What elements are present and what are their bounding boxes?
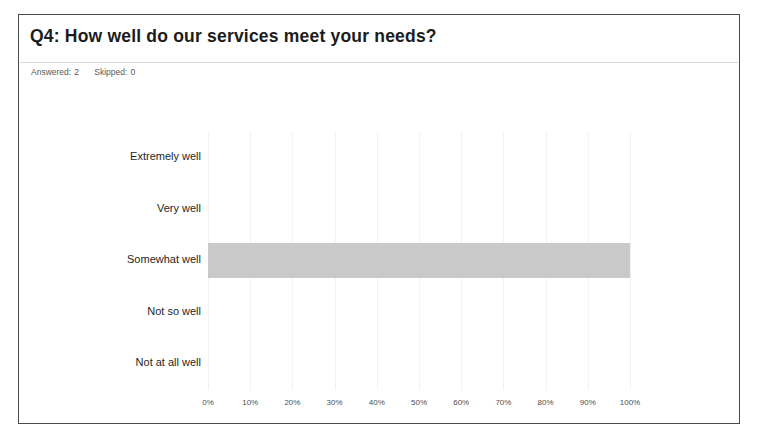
answered-stat: Answered:2	[31, 67, 79, 77]
skipped-value: 0	[130, 67, 135, 77]
answered-value: 2	[74, 67, 79, 77]
x-tick-label: 0%	[202, 398, 214, 407]
skipped-label: Skipped:	[94, 67, 127, 77]
response-summary: Answered:2 Skipped:0	[31, 67, 135, 77]
category-label: Somewhat well	[127, 252, 201, 266]
category-label: Not so well	[147, 304, 201, 318]
category-label: Very well	[157, 201, 201, 215]
x-tick-label: 100%	[620, 398, 640, 407]
bar-row: Not so well	[208, 287, 630, 339]
x-tick-label: 70%	[495, 398, 511, 407]
x-tick-label: 30%	[327, 398, 343, 407]
x-tick-label: 40%	[369, 398, 385, 407]
skipped-stat: Skipped:0	[94, 67, 135, 77]
category-label: Extremely well	[130, 149, 201, 163]
x-axis: 0%10%20%30%40%50%60%70%80%90%100%	[208, 398, 630, 414]
x-tick-label: 10%	[242, 398, 258, 407]
x-tick-label: 60%	[453, 398, 469, 407]
bar-chart: Extremely wellVery wellSomewhat wellNot …	[19, 85, 739, 423]
card-header: Q4: How well do our services meet your n…	[19, 15, 739, 63]
answered-label: Answered:	[31, 67, 71, 77]
x-tick-label: 80%	[538, 398, 554, 407]
bar[interactable]	[208, 243, 630, 278]
category-label: Not at all well	[136, 355, 201, 369]
x-tick-label: 20%	[284, 398, 300, 407]
survey-question-card: Q4: How well do our services meet your n…	[18, 14, 740, 424]
page-title: Q4: How well do our services meet your n…	[30, 26, 437, 47]
bar-row: Somewhat well	[208, 235, 630, 287]
plot-region: Extremely wellVery wellSomewhat wellNot …	[208, 132, 630, 390]
x-tick-label: 50%	[411, 398, 427, 407]
bar-row: Extremely well	[208, 132, 630, 184]
bar-row: Very well	[208, 184, 630, 236]
header-divider	[20, 62, 738, 63]
gridline	[630, 132, 631, 390]
bar-row: Not at all well	[208, 338, 630, 390]
x-tick-label: 90%	[580, 398, 596, 407]
